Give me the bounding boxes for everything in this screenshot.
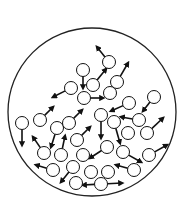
particle-diagram [0, 0, 180, 200]
motion-arrow [129, 155, 141, 162]
particle [63, 117, 76, 130]
particle [122, 127, 135, 140]
motion-arrow [45, 107, 53, 115]
motion-arrow [90, 151, 102, 158]
particle [34, 114, 47, 127]
motion-arrow [53, 91, 65, 97]
particle [70, 177, 83, 190]
motion-arrow [155, 145, 167, 152]
motion-arrow [74, 110, 82, 118]
particle [71, 134, 84, 147]
particle [85, 166, 98, 179]
motion-arrow [111, 106, 123, 111]
particles [16, 56, 161, 191]
particle [51, 122, 64, 135]
particle [95, 178, 108, 191]
particle [101, 141, 114, 154]
particle [47, 164, 60, 177]
particle [104, 87, 117, 100]
particle [16, 117, 29, 130]
motion-arrow [120, 63, 128, 76]
motion-arrow [97, 69, 106, 80]
particle [133, 114, 146, 127]
motion-arrow [121, 117, 133, 119]
particle [128, 164, 141, 177]
particle [102, 166, 115, 179]
particle [123, 97, 136, 110]
particle [77, 64, 90, 77]
particle [117, 146, 130, 159]
motion-arrow [152, 118, 163, 129]
particle [55, 149, 68, 162]
motion-arrow [143, 102, 150, 111]
motion-arrow [82, 127, 90, 135]
particle [78, 92, 91, 105]
particle [148, 91, 161, 104]
motion-arrow [97, 47, 105, 57]
motion-arrow [62, 136, 65, 149]
motion-arrow [83, 184, 95, 185]
diagram-canvas [0, 0, 180, 200]
motion-arrow [107, 183, 122, 184]
motion-arrow [51, 134, 55, 147]
particle [67, 161, 80, 174]
particle [77, 149, 90, 162]
particle [108, 116, 121, 129]
particle [65, 82, 78, 95]
motion-arrow [33, 137, 40, 148]
particle [103, 56, 116, 69]
particle [143, 149, 156, 162]
particle [141, 127, 154, 140]
motion-arrow [116, 165, 128, 168]
particle [38, 147, 51, 160]
motion-arrow [36, 165, 47, 168]
motion-arrow [61, 172, 69, 182]
motion-arrow [116, 128, 120, 143]
particle [87, 79, 100, 92]
particle [95, 109, 108, 122]
